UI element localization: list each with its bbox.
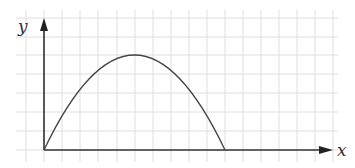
y-axis-arrow-icon: [40, 18, 48, 31]
graph-canvas: y x: [0, 0, 355, 168]
grid: [16, 10, 338, 162]
x-axis-arrow-icon: [319, 146, 333, 154]
y-axis: [40, 18, 48, 150]
y-axis-label: y: [17, 16, 28, 36]
x-axis-label: x: [337, 140, 347, 160]
